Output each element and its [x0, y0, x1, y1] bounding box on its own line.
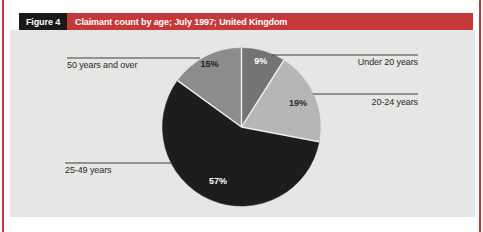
category-label-under-20: Under 20 years [358, 57, 418, 67]
pie-percent-label-1: 19% [289, 98, 307, 108]
category-label-50-over: 50 years and over [67, 60, 137, 70]
category-label-25-49: 25-49 years [65, 165, 111, 175]
pie-percent-label-2: 57% [209, 176, 227, 186]
pie-percent-label-3: 15% [201, 59, 219, 69]
figure-panel: Figure 4 Claimant count by age; July 199… [0, 0, 483, 232]
pie-chart: 9%19%57%15% [0, 0, 483, 232]
category-label-20-24: 20-24 years [372, 97, 418, 107]
pie-percent-label-0: 9% [254, 56, 267, 66]
